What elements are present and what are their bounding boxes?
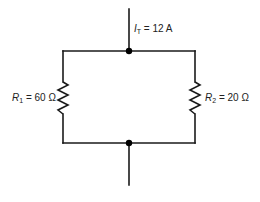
resistor-r2-label: R2 = 20 Ω: [205, 92, 249, 104]
parallel-circuit-diagram: IT = 12 A R1 = 60 Ω R2 = 20 Ω: [0, 0, 260, 202]
resistor-r1-value: 60 Ω: [35, 92, 57, 103]
resistor-r2-value: 20 Ω: [228, 92, 250, 103]
resistor-r1-label: R1 = 60 Ω: [12, 92, 56, 104]
resistor-r2-icon: [190, 82, 200, 114]
resistor-r1-symbol: R: [12, 92, 19, 103]
total-current-equals: =: [141, 23, 152, 34]
bottom-junction-dot-icon: [126, 140, 132, 146]
total-current-value: 12 A: [152, 23, 172, 34]
top-junction-dot-icon: [126, 48, 132, 54]
resistor-r1-equals: =: [23, 92, 34, 103]
resistor-r1-icon: [58, 82, 68, 114]
resistor-r2-equals: =: [216, 92, 227, 103]
resistor-r2-symbol: R: [205, 92, 212, 103]
total-current-label: IT = 12 A: [134, 23, 173, 35]
